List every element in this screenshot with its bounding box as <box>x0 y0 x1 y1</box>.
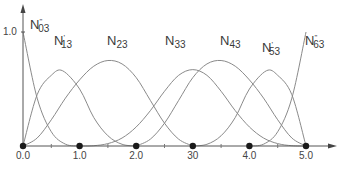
knot-marker-dot-icon <box>133 143 139 149</box>
series-label-main: N <box>107 33 116 48</box>
knot-marker-dot-icon <box>76 143 82 149</box>
series-label-n63: N"63 <box>305 33 324 50</box>
knot-marker-dot-icon <box>20 143 26 149</box>
series-label-sub: 03 <box>38 23 49 34</box>
knot-marker-dot-icon <box>246 143 252 149</box>
series-label-n33: N33 <box>165 33 186 50</box>
curve-n33 <box>80 70 306 146</box>
y-axis-arrow-icon <box>21 4 26 13</box>
x-axis-arrow-icon <box>328 144 337 149</box>
series-label-main: N <box>165 33 174 48</box>
series-label-sub: 23 <box>116 39 127 50</box>
series-label-sub: 13 <box>61 39 72 50</box>
series-label-sub: 43 <box>229 39 240 50</box>
curve-n43 <box>136 60 306 146</box>
series-label-n23: N23 <box>107 33 128 50</box>
series-label-n53: N'53 <box>262 40 280 57</box>
knot-marker-dot-icon <box>303 143 309 149</box>
x-tick-label: 0.0 <box>16 150 30 161</box>
series-label-n03: N"03 <box>30 17 49 34</box>
series-label-n13: N'13 <box>54 33 72 50</box>
series-label-sub: 33 <box>174 39 185 50</box>
series-label-sub: 63 <box>313 39 324 50</box>
x-tick-label: 30 <box>187 150 198 161</box>
x-tick-label: 1.0 <box>73 150 87 161</box>
knot-marker-dot-icon <box>190 143 196 149</box>
curve-n23 <box>23 60 193 146</box>
x-tick-label: 4.0 <box>242 150 256 161</box>
series-label-n43: N43 <box>220 33 241 50</box>
series-label-main: N <box>220 33 229 48</box>
bspline-basis-chart <box>0 0 349 173</box>
x-tick-label: 2.0 <box>129 150 143 161</box>
x-tick-label: 5.0 <box>299 150 313 161</box>
y-tick-label: 1.0 <box>3 26 17 37</box>
series-label-sub: 53 <box>269 46 280 57</box>
